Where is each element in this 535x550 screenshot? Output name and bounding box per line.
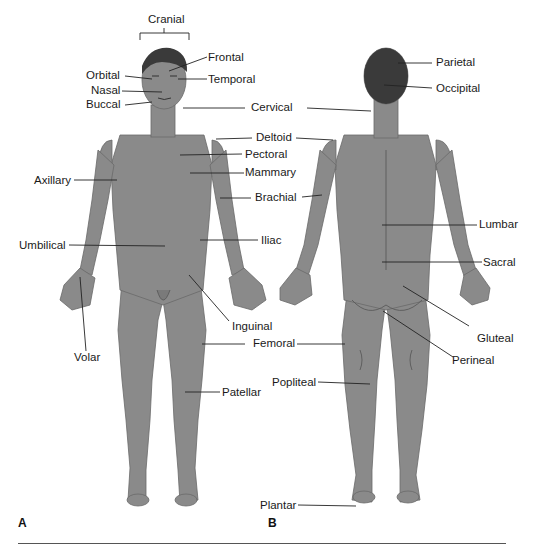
anterior-figure: [60, 51, 266, 506]
posterior-hair: [364, 48, 408, 104]
label-femoral: Femoral: [253, 338, 295, 350]
label-cervical: Cervical: [251, 102, 293, 114]
label-frontal: Frontal: [208, 52, 244, 64]
label-patellar: Patellar: [222, 387, 261, 399]
label-brachial: Brachial: [255, 192, 297, 204]
posterior-figure: [280, 48, 490, 503]
label-mammary: Mammary: [245, 167, 296, 179]
label-volar: Volar: [74, 352, 100, 364]
label-plantar: Plantar: [260, 500, 296, 512]
label-axillary: Axillary: [34, 175, 71, 187]
panel-label-a: A: [18, 516, 27, 530]
label-occipital: Occipital: [436, 83, 480, 95]
label-buccal: Buccal: [86, 99, 121, 111]
label-lumbar: Lumbar: [479, 219, 518, 231]
label-deltoid: Deltoid: [256, 132, 292, 144]
body-regions-diagram: Cranial Frontal Orbital Temporal Nasal B…: [0, 0, 535, 550]
label-nasal: Nasal: [91, 85, 120, 97]
label-pectoral: Pectoral: [245, 149, 287, 161]
label-inguinal: Inguinal: [232, 321, 272, 333]
label-iliac: Iliac: [261, 235, 281, 247]
bottom-divider: [18, 543, 506, 544]
label-umbilical: Umbilical: [19, 240, 66, 252]
label-popliteal: Popliteal: [272, 377, 316, 389]
label-orbital: Orbital: [86, 70, 120, 82]
label-temporal: Temporal: [208, 74, 255, 86]
label-cranial: Cranial: [148, 14, 184, 26]
label-gluteal: Gluteal: [477, 333, 513, 345]
label-parietal: Parietal: [436, 57, 475, 69]
panel-label-b: B: [268, 516, 277, 530]
label-sacral: Sacral: [483, 257, 516, 269]
label-perineal: Perineal: [452, 355, 494, 367]
